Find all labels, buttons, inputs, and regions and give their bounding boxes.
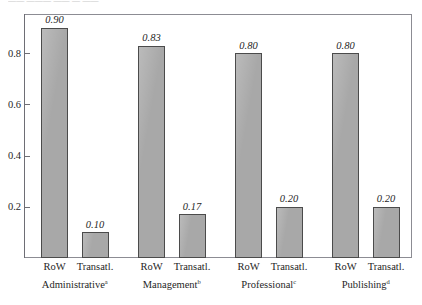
bars-layer: 0.900.100.830.170.800.200.800.20 bbox=[24, 14, 412, 258]
bar-value-label: 0.83 bbox=[142, 33, 160, 44]
clipped-caption-remnant: —— ——— —— — —— bbox=[8, 0, 158, 5]
bar: 0.20 bbox=[373, 207, 400, 258]
x-axis-series-label: RoW bbox=[43, 262, 65, 273]
y-axis-tick-label: 0.6 bbox=[8, 100, 21, 111]
bar-value-label: 0.80 bbox=[336, 41, 354, 52]
bar-value-label: 0.20 bbox=[377, 194, 395, 205]
bar: 0.90 bbox=[41, 28, 68, 258]
bar-value-label: 0.10 bbox=[86, 220, 104, 231]
group-label-footnote-marker: d bbox=[387, 278, 390, 285]
group-label-footnote-marker: c bbox=[293, 278, 296, 285]
bar: 0.83 bbox=[138, 46, 165, 258]
group-label-footnote-marker: a bbox=[105, 278, 108, 285]
x-axis-group-label: Publishingd bbox=[342, 280, 390, 291]
x-axis-series-label: Transatl. bbox=[77, 262, 114, 273]
x-axis-series-label: RoW bbox=[334, 262, 356, 273]
bar: 0.10 bbox=[82, 232, 109, 258]
bar: 0.17 bbox=[179, 214, 206, 258]
group-label-footnote-marker: b bbox=[198, 278, 201, 285]
bar-value-label: 0.80 bbox=[239, 41, 257, 52]
x-axis-group-label: Managementb bbox=[143, 280, 201, 291]
y-axis-tick-label: 0.2 bbox=[8, 202, 21, 213]
x-axis-series-label: Transatl. bbox=[271, 262, 308, 273]
bar-chart-figure: —— ——— —— — —— 0.20.40.60.8 0.900.100.83… bbox=[0, 0, 422, 305]
x-axis-labels: RoWTransatl.AdministrativeaRoWTransatl.M… bbox=[0, 258, 422, 305]
x-axis-series-label: RoW bbox=[237, 262, 259, 273]
x-axis-series-label: Transatl. bbox=[368, 262, 405, 273]
bar: 0.80 bbox=[332, 53, 359, 258]
x-axis-series-label: RoW bbox=[140, 262, 162, 273]
x-axis-series-label: Transatl. bbox=[174, 262, 211, 273]
y-axis-tick-label: 0.4 bbox=[8, 151, 21, 162]
bar-value-label: 0.17 bbox=[183, 202, 201, 213]
bar: 0.80 bbox=[235, 53, 262, 258]
bar-value-label: 0.20 bbox=[280, 194, 298, 205]
x-axis-group-label: Professionalc bbox=[241, 280, 296, 291]
x-axis-group-label: Administrativea bbox=[42, 280, 108, 291]
bar: 0.20 bbox=[276, 207, 303, 258]
bar-value-label: 0.90 bbox=[45, 15, 63, 26]
y-axis-tick-label: 0.8 bbox=[8, 48, 21, 59]
